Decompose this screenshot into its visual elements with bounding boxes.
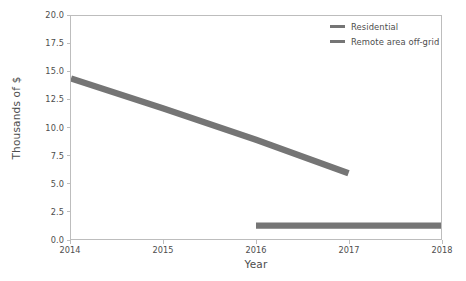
y-tick-label: 17.5 (45, 37, 64, 49)
legend-line-icon (330, 25, 345, 28)
x-tick-mark (163, 240, 164, 244)
x-tick-label: 2015 (152, 245, 173, 256)
legend-label: Remote area off-grid (351, 37, 439, 47)
y-tick-label: 20.0 (45, 9, 64, 21)
chart-legend: ResidentialRemote area off-grid (330, 20, 439, 50)
y-tick-label: 5.0 (51, 178, 64, 190)
x-tick-mark (442, 240, 443, 244)
x-tick-label: 2018 (431, 245, 452, 256)
legend-item[interactable]: Remote area off-grid (330, 35, 439, 48)
x-axis-title: Year (70, 258, 442, 270)
x-tick-mark (349, 240, 350, 244)
y-tick-label: 12.5 (45, 93, 64, 105)
x-tick-label: 2014 (59, 245, 80, 256)
x-tick-mark (256, 240, 257, 244)
series-line (71, 78, 349, 173)
y-tick-label: 7.5 (51, 150, 64, 162)
y-tick-label: 2.5 (51, 206, 64, 218)
y-tick-label: 10.0 (45, 122, 64, 134)
x-tick-label: 2016 (245, 245, 266, 256)
x-tick-mark (70, 240, 71, 244)
y-tick-label: 15.0 (45, 65, 64, 77)
legend-label: Residential (351, 22, 398, 32)
y-axis-title: Thousands of $ (10, 58, 22, 178)
chart-figure: 0.02.55.07.510.012.515.017.520.0 2014201… (0, 0, 466, 281)
legend-item[interactable]: Residential (330, 20, 439, 33)
x-tick-label: 2017 (338, 245, 359, 256)
legend-line-icon (330, 40, 345, 43)
